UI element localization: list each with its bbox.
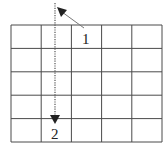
arrow-1-head [57, 7, 67, 17]
arrow-2-label: 2 [51, 126, 59, 142]
arrow-1-line [62, 12, 84, 28]
arrow-2-head [50, 115, 60, 124]
grid-diagram: 2 1 [0, 0, 168, 149]
arrow-1-label: 1 [82, 31, 90, 47]
